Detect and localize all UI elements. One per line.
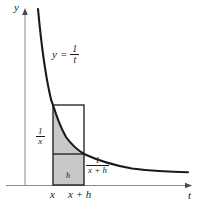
equation-lhs: y	[52, 49, 57, 60]
hyperbola-figure: y t y = 1 t 1 x 1 x + h h x x + h	[0, 0, 198, 211]
tick-label-x-plus-h: x + h	[68, 189, 91, 200]
one-over-x-plus-h-fraction: 1 x + h	[86, 156, 109, 175]
tick-label-x: x	[50, 189, 55, 200]
equation-denominator: t	[70, 55, 79, 65]
one-over-x-plus-h-label: 1 x + h	[86, 156, 109, 175]
equation-fraction: 1 t	[70, 44, 79, 65]
curve-equation-label: y = 1 t	[52, 44, 79, 65]
width-h-label: h	[66, 172, 70, 180]
one-over-x-denominator: x	[36, 137, 45, 146]
t-axis-arrowhead	[185, 183, 192, 189]
y-axis-label: y	[14, 2, 19, 13]
equation-equals-sign: =	[60, 49, 67, 60]
y-axis-arrowhead	[22, 8, 28, 15]
figure-canvas	[0, 0, 198, 211]
one-over-x-label: 1 x	[36, 127, 45, 146]
one-over-x-fraction: 1 x	[36, 127, 45, 146]
t-axis-label: t	[188, 190, 191, 201]
one-over-x-plus-h-denominator: x + h	[86, 166, 109, 175]
